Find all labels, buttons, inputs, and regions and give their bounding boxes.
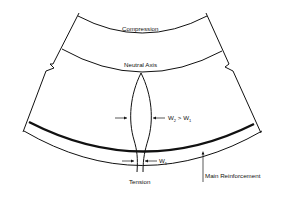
tension-label: Tension [129,178,151,185]
w1-arrows [122,160,157,163]
reinforcement-leader [202,151,205,182]
w2-label: W2 > W1 [168,114,192,123]
w2-arrows [115,117,165,120]
right-edge-line [206,13,261,133]
left-edge-line [23,13,79,132]
main-reinforcement-label: Main Reinforcement [205,172,261,179]
crack-outline-left [131,73,141,172]
compression-label: Compression [122,25,159,32]
crack-outline-right [141,73,151,172]
beam-crack-diagram: W2 > W1 W1 Compression Neutral Axis Tens… [0,0,283,197]
main-reinforcement-bar [29,122,254,152]
neutral-axis-label: Neutral Axis [124,61,157,68]
